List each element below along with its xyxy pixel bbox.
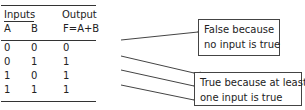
arrow-true-row3 xyxy=(121,85,194,100)
false-box-line2: no input is true xyxy=(204,37,275,52)
arrow-false-row0 xyxy=(121,32,198,40)
arrow-true-row2 xyxy=(121,70,194,86)
true-box-line1: True because at least xyxy=(200,75,297,90)
true-explanation-box: True because at least one input is true xyxy=(194,72,302,106)
arrow-true-row1 xyxy=(121,56,194,73)
true-box-line2: one input is true xyxy=(200,90,297,105)
false-box-line1: False because xyxy=(204,22,275,37)
false-explanation-box: False because no input is true xyxy=(198,19,280,56)
